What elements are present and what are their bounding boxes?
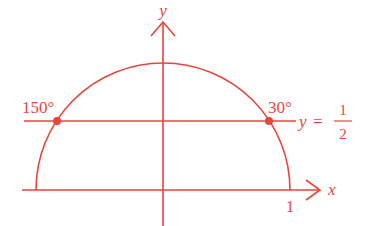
point-150 (53, 117, 61, 125)
x-axis-label: x (327, 180, 336, 199)
point-30 (265, 117, 273, 125)
angle-label-150: 150° (22, 98, 54, 117)
unit-circle-diagram: y x 1 150° 30° y = 1 2 (0, 0, 382, 226)
y-axis-label: y (157, 1, 167, 20)
line-equation-label: y = 1 2 (297, 102, 352, 142)
fraction-numerator: 1 (339, 102, 347, 118)
equation-equals: = (313, 112, 323, 131)
angle-label-30: 30° (268, 98, 292, 117)
fraction-denominator: 2 (339, 126, 347, 142)
equation-variable: y (297, 112, 307, 131)
x-tick-label-one: 1 (286, 198, 294, 215)
